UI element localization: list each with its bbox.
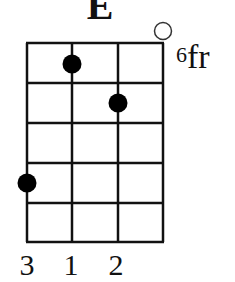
finger-dot xyxy=(63,55,82,74)
open-string-marker xyxy=(155,23,172,40)
finger-dot xyxy=(18,174,37,193)
finger-number: 3 xyxy=(12,248,42,282)
fret-position-label: 6fr xyxy=(176,37,210,77)
finger-number: 2 xyxy=(101,248,131,282)
finger-number: 1 xyxy=(56,248,86,282)
fret-position-number: 6 xyxy=(176,42,187,67)
finger-dot xyxy=(109,94,128,113)
fret-position-suffix: fr xyxy=(187,38,210,75)
fretboard-lines xyxy=(26,43,164,242)
